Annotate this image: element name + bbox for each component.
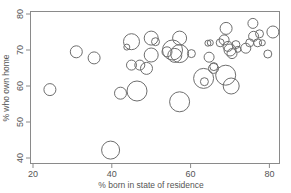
data-bubble [204,52,214,62]
data-bubble [249,31,259,41]
data-bubble [141,62,153,74]
x-tick-label: 60 [186,169,196,179]
y-tick-label: 80 [15,9,25,19]
plot-frame [31,12,280,164]
y-axis: 4050607080 [15,9,30,163]
x-tick-label: 40 [107,169,117,179]
y-tick-label: 70 [15,45,25,55]
x-tick-label: 80 [264,169,274,179]
data-bubble [127,81,147,101]
bubble-series [44,18,279,159]
data-bubble [223,78,239,94]
data-bubble [259,40,265,46]
data-bubble [224,44,236,56]
data-bubble [144,48,158,62]
bubble-chart: 20406080 4050607080 % born in state of r… [0,0,291,193]
data-bubble [256,30,264,38]
y-tick-label: 60 [15,81,25,91]
data-bubble [115,87,127,99]
data-bubble [88,52,100,64]
data-bubble [124,34,140,50]
data-bubble [220,22,232,34]
y-tick-label: 50 [15,117,25,127]
data-bubble [70,46,82,58]
data-bubble [102,141,120,159]
y-tick-label: 40 [15,153,25,163]
data-bubble [248,18,258,28]
x-axis-label: % born in state of residence [98,180,204,190]
y-axis-label: % who own home [1,54,11,121]
x-tick-label: 20 [28,169,38,179]
data-bubble [152,38,160,46]
data-bubble [264,50,272,58]
data-bubble [170,92,190,112]
data-bubble [216,65,236,85]
x-axis: 20406080 [28,164,274,179]
data-bubble [200,78,208,86]
data-bubble [44,84,56,96]
data-bubble [267,26,279,38]
